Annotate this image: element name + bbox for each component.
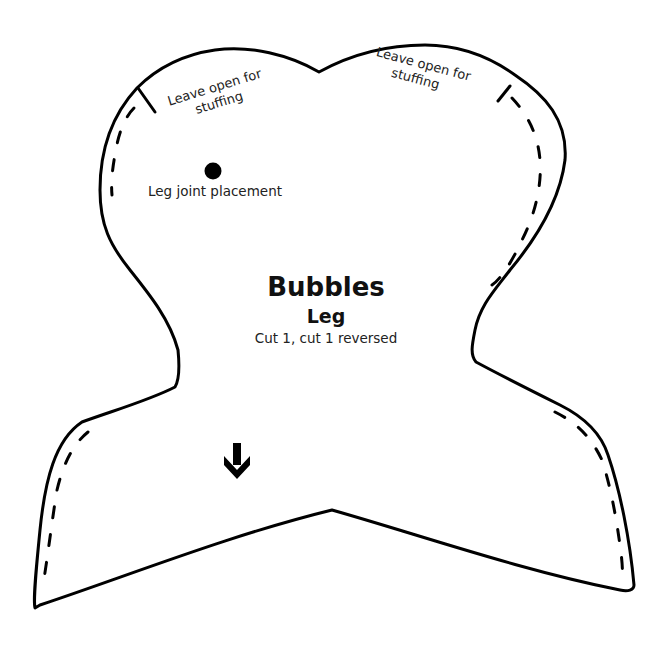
seam-line-upper-right (492, 98, 540, 285)
cut-instructions: Cut 1, cut 1 reversed (255, 330, 398, 346)
arrow-down-icon (224, 443, 250, 479)
pattern-title: Bubbles (267, 272, 385, 302)
pattern-piece: Leave open for stuffing Leave open for s… (0, 0, 672, 651)
seam-line-lower-right (555, 412, 622, 578)
opening-label-left: Leave open for stuffing (166, 65, 272, 124)
piece-name: Leg (307, 305, 346, 327)
opening-mark-right (498, 86, 510, 101)
opening-mark-left (138, 88, 155, 112)
opening-label-right: Leave open for stuffing (371, 44, 477, 100)
filled-circle-icon (205, 163, 222, 180)
joint-placement-label: Leg joint placement (148, 183, 282, 199)
seam-line-lower-left (43, 432, 88, 585)
